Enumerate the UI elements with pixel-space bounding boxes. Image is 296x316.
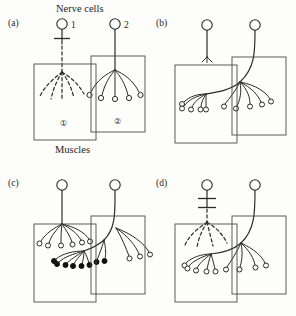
neuron-1-degenerating-terminals (40, 72, 84, 100)
neuron-2-soma (110, 19, 120, 29)
panel-b-neuron-2-terminals (180, 82, 274, 112)
panel-c-neuron-1-regenerated-terminals (37, 224, 93, 248)
neuron-1-label: 1 (71, 20, 76, 30)
panel-b-label: (b) (156, 18, 167, 29)
muscles-label: Muscles (55, 144, 90, 155)
panel-c-neuron-1-soma (57, 180, 67, 190)
panel-d-neuron-2-axon (211, 190, 255, 254)
nerve-cells-label: Nerve cells (56, 3, 104, 14)
nerve-muscle-reinnervation-figure: (a) Nerve cells 1 2 (0, 0, 296, 316)
panel-c-label: (c) (8, 178, 19, 189)
panel-d-neuron-1-soma (202, 180, 212, 190)
panel-a: (a) Nerve cells 1 2 (8, 3, 145, 155)
panel-a-label: (a) (8, 18, 19, 29)
muscle-2-label: ② (114, 117, 121, 126)
panel-d-neuron-2-soma (250, 180, 260, 190)
neuron-1-soma (57, 19, 67, 29)
panel-b-neuron-2-axon (206, 30, 255, 94)
panel-d: (d) (156, 178, 286, 302)
muscle-1-box (34, 64, 96, 140)
panel-c-neuron-2-muscle2-terminals (116, 228, 153, 261)
panel-d-label: (d) (156, 178, 167, 189)
panel-d-neuron-2-terminals (182, 243, 269, 274)
panel-b-neuron-1-withdrawn-stub (202, 57, 212, 63)
panel-d-neuron-1-degenerating-terminals (185, 222, 227, 247)
panel-b-neuron-1-soma (202, 20, 212, 30)
muscle-1-label: ① (60, 119, 67, 128)
neuron-2-terminals (87, 70, 143, 102)
panel-c: (c) (8, 178, 153, 302)
neuron-2-label: 2 (124, 20, 129, 30)
panel-b: (b) (156, 18, 286, 143)
panel-c-neuron-2-soma (110, 180, 120, 190)
panel-b-neuron-2-soma (250, 20, 260, 30)
